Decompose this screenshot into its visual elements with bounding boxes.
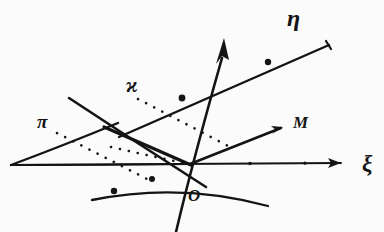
lower-left-ray (92, 176, 268, 206)
label-M: M (292, 113, 309, 132)
marked-point (149, 176, 155, 182)
label-pi: π (37, 111, 48, 132)
label-kappa: ϰ (126, 73, 138, 97)
label-eta: η (287, 5, 300, 31)
marked-point (179, 95, 186, 102)
marked-point (111, 188, 117, 194)
plane-slant-edge (11, 123, 118, 165)
label-xi: ξ (362, 151, 373, 176)
axis-tick-point (248, 162, 252, 166)
marked-point (265, 59, 271, 65)
label-origin: O (188, 186, 200, 205)
eta-axis (176, 38, 229, 232)
axis-tick-point (303, 162, 306, 165)
plane-fold-edge (104, 127, 191, 165)
geometry-diagram: η ξ ϰ π M O (0, 0, 384, 232)
M-line (190, 126, 283, 164)
